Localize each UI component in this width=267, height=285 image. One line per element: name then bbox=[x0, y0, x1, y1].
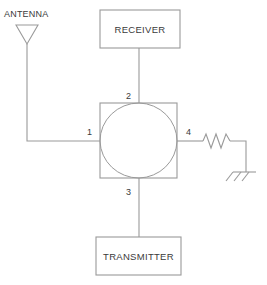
antenna-label: ANTENNA bbox=[4, 9, 48, 19]
port-4-label: 4 bbox=[186, 127, 191, 137]
receiver-block: RECEIVER bbox=[100, 10, 180, 48]
resistor-icon bbox=[203, 134, 230, 148]
port-2-label: 2 bbox=[126, 91, 131, 101]
wire-resistor-to-ground bbox=[230, 141, 246, 172]
port-3-label: 3 bbox=[126, 187, 131, 197]
circuit-diagram: ANTENNA RECEIVER TRANSMITTER bbox=[0, 0, 267, 285]
diagram-canvas: ANTENNA RECEIVER TRANSMITTER bbox=[0, 0, 267, 285]
receiver-label: RECEIVER bbox=[115, 24, 166, 35]
antenna-icon bbox=[16, 25, 38, 44]
port-1-label: 1 bbox=[87, 127, 92, 137]
transmitter-block: TRANSMITTER bbox=[96, 237, 181, 275]
ground-icon bbox=[226, 172, 256, 181]
transmitter-label: TRANSMITTER bbox=[103, 251, 174, 262]
hybrid-ring-coupler bbox=[100, 103, 177, 178]
